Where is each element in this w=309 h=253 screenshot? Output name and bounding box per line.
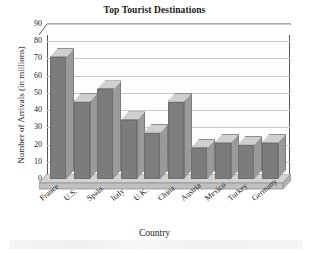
bar-chart: Top Tourist Destinations Number of Arriv… xyxy=(0,0,309,253)
y-tick-label: 10 xyxy=(22,158,42,166)
y-tick-label: 50 xyxy=(22,89,42,97)
y-tick-label: 20 xyxy=(22,141,42,149)
chart-title: Top Tourist Destinations xyxy=(0,5,309,15)
gridline xyxy=(47,41,290,42)
gridline xyxy=(47,58,290,59)
gridline xyxy=(47,110,290,111)
y-tick-label: 80 xyxy=(22,37,42,45)
y-tick-label: 70 xyxy=(22,54,42,62)
y-tick-label: 60 xyxy=(22,72,42,80)
gridline xyxy=(47,145,290,146)
gridline xyxy=(47,76,290,77)
gridline xyxy=(47,93,290,94)
gridline xyxy=(47,24,290,25)
gridline xyxy=(47,127,290,128)
plot-area xyxy=(47,24,290,179)
y-tick-label: 40 xyxy=(22,106,42,114)
y-tick-label: 90 xyxy=(22,20,42,28)
y-tick-label: 30 xyxy=(22,123,42,131)
gridline xyxy=(47,162,290,163)
scan-artifact xyxy=(10,240,302,249)
x-axis-title: Country xyxy=(0,228,309,238)
